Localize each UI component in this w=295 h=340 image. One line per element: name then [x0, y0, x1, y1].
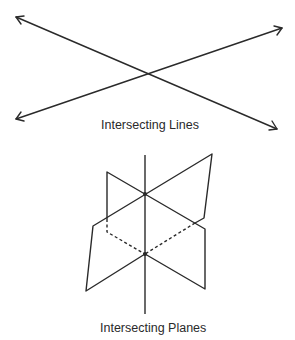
upper-intersection-point	[144, 193, 147, 196]
intersecting-planes-figure	[86, 154, 212, 314]
plane-b-hidden-edge	[145, 223, 195, 254]
intersecting-lines-figure	[16, 16, 282, 130]
plane-a-hidden-edges	[107, 219, 145, 254]
line-2	[16, 28, 282, 119]
plane-a-visible-edges	[107, 172, 205, 289]
diagram-canvas	[0, 0, 295, 340]
intersecting-planes-caption: Intersecting Planes	[100, 321, 206, 335]
intersecting-lines-caption: Intersecting Lines	[101, 118, 199, 132]
lower-intersection-point	[144, 253, 147, 256]
line-1	[16, 17, 277, 129]
